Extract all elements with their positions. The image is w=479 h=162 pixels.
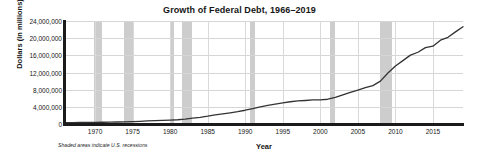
x-tick-label: 1975 <box>113 128 153 135</box>
y-tick-label: 8,000,000 <box>14 86 62 93</box>
x-tick-label: 2000 <box>300 128 340 135</box>
x-tick-label: 1990 <box>225 128 265 135</box>
federal-debt-line <box>65 27 463 123</box>
y-tick-label: 12,000,000 <box>14 69 62 76</box>
x-tick-label: 1970 <box>75 128 115 135</box>
x-tick-label: 1980 <box>150 128 190 135</box>
y-tick-label: 0 <box>14 121 62 128</box>
chart-footnote: Shaded areas indicate U.S. recessions <box>58 142 147 148</box>
x-axis-spine <box>63 123 464 126</box>
chart-figure: Growth of Federal Debt, 1966–2019 Dollar… <box>0 0 479 162</box>
x-axis-tick-labels: 1970197519801985199019952000200520102015 <box>0 128 479 140</box>
x-tick-label: 1995 <box>263 128 303 135</box>
x-tick-label: 2015 <box>413 128 453 135</box>
x-tick-label: 2010 <box>375 128 415 135</box>
y-tick-label: 16,000,000 <box>14 52 62 59</box>
y-tick-label: 4,000,000 <box>14 103 62 110</box>
chart-title: Growth of Federal Debt, 1966–2019 <box>0 5 479 15</box>
data-series-layer <box>65 21 463 124</box>
y-tick-label: 24,000,000 <box>14 18 62 25</box>
x-tick-label: 1985 <box>188 128 228 135</box>
plot-area <box>65 21 463 124</box>
y-axis-spine <box>63 20 66 125</box>
y-tick-label: 20,000,000 <box>14 35 62 42</box>
x-tick-label: 2005 <box>338 128 378 135</box>
